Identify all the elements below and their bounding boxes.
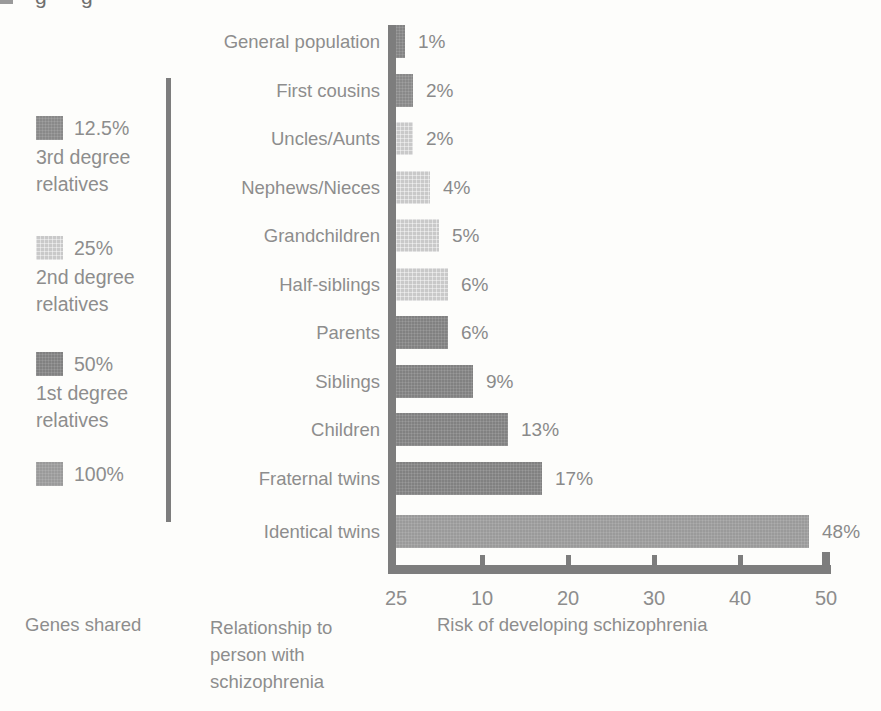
- tick-label: 25: [385, 587, 407, 610]
- bar-second: [396, 171, 430, 204]
- bar-first: [396, 365, 473, 398]
- legend-group-100: 100%: [36, 462, 176, 486]
- value-label: 6%: [461, 316, 488, 349]
- category-label: Fraternal twins: [170, 462, 380, 495]
- value-label: 4%: [443, 171, 470, 204]
- legend-swatch-1st-degree: [36, 352, 63, 376]
- category-label: Parents: [170, 316, 380, 349]
- tick-label: 10: [471, 587, 493, 610]
- genes-shared-label: Genes shared: [25, 614, 141, 636]
- legend-line: 1st degree: [36, 380, 176, 407]
- legend-line: relatives: [36, 291, 176, 318]
- value-label: 17%: [555, 462, 593, 495]
- axis-tick: [652, 555, 657, 565]
- cropped-letter: g: [81, 0, 93, 9]
- cropped-letter: g: [35, 0, 47, 9]
- legend-pct: 25%: [74, 237, 113, 260]
- bar-first: [396, 462, 542, 495]
- cropped-mark: [0, 0, 13, 4]
- category-label: Uncles/Aunts: [170, 122, 380, 155]
- value-label: 2%: [426, 122, 453, 155]
- category-label: Nephews/Nieces: [170, 171, 380, 204]
- legend-swatch-3rd-degree: [36, 116, 63, 140]
- legend-head: 100%: [36, 462, 176, 486]
- bar-second: [396, 219, 439, 252]
- legend-line: 2nd degree: [36, 264, 176, 291]
- axis-tick: [738, 555, 743, 565]
- legend-head: 12.5%: [36, 116, 176, 140]
- legend-line: relatives: [36, 407, 176, 434]
- legend-group-50: 50% 1st degree relatives: [36, 352, 176, 434]
- legend-swatch-2nd-degree: [36, 236, 63, 260]
- bar-general: [396, 25, 405, 58]
- legend-pct: 50%: [74, 353, 113, 376]
- relationship-line: schizophrenia: [210, 668, 332, 695]
- axis-tick: [566, 555, 571, 565]
- x-axis-title: Risk of developing schizophrenia: [437, 614, 707, 636]
- value-label: 9%: [486, 365, 513, 398]
- category-label: General population: [170, 25, 380, 58]
- legend-head: 50%: [36, 352, 176, 376]
- category-label: Identical twins: [170, 515, 380, 548]
- legend-line: 3rd degree: [36, 144, 176, 171]
- legend-group-25: 25% 2nd degree relatives: [36, 236, 176, 318]
- category-label: Grandchildren: [170, 219, 380, 252]
- category-label: Siblings: [170, 365, 380, 398]
- legend-sublabel: 3rd degree relatives: [36, 144, 176, 198]
- value-label: 5%: [452, 219, 479, 252]
- legend-swatch-100pct: [36, 462, 63, 486]
- value-label: 2%: [426, 74, 453, 107]
- legend-head: 25%: [36, 236, 176, 260]
- value-label: 48%: [822, 515, 860, 548]
- relationship-line: Relationship to: [210, 614, 332, 641]
- tick-label: 50: [815, 587, 837, 610]
- value-label: 1%: [418, 25, 445, 58]
- axis-tick: [822, 552, 830, 565]
- legend-sublabel: 1st degree relatives: [36, 380, 176, 434]
- y-axis-line: [388, 25, 396, 574]
- x-axis-line: [388, 565, 831, 574]
- legend-pct: 100%: [74, 463, 124, 486]
- relationship-axis-label: Relationship to person with schizophreni…: [210, 614, 332, 695]
- schizophrenia-risk-figure: g g 12.5% 3rd degree relatives 25% 2nd d…: [0, 0, 881, 711]
- bar-first: [396, 316, 448, 349]
- legend-sublabel: 2nd degree relatives: [36, 264, 176, 318]
- category-label: Children: [170, 413, 380, 446]
- bar-hundred: [396, 515, 809, 548]
- legend-group-12-5: 12.5% 3rd degree relatives: [36, 116, 176, 198]
- tick-label: 40: [729, 587, 751, 610]
- relationship-line: person with: [210, 641, 332, 668]
- bar-second: [396, 268, 448, 301]
- tick-label: 30: [643, 587, 665, 610]
- category-label: Half-siblings: [170, 268, 380, 301]
- tick-label: 20: [557, 587, 579, 610]
- legend-line: relatives: [36, 171, 176, 198]
- legend-pct: 12.5%: [74, 117, 129, 140]
- value-label: 6%: [461, 268, 488, 301]
- value-label: 13%: [521, 413, 559, 446]
- axis-tick: [480, 555, 485, 565]
- bar-third: [396, 74, 413, 107]
- bar-first: [396, 413, 508, 446]
- category-label: First cousins: [170, 74, 380, 107]
- bar-second: [396, 122, 413, 155]
- cropped-page-text: g g: [0, 0, 320, 9]
